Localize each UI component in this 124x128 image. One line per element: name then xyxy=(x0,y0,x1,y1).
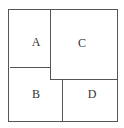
outer-border-bottom xyxy=(8,121,118,122)
divider-a-c xyxy=(50,9,51,80)
region-label-b: B xyxy=(32,88,40,100)
outer-border-right xyxy=(117,9,118,122)
divider-a-b xyxy=(10,67,51,68)
outer-border-top xyxy=(8,9,118,10)
outer-border-left xyxy=(8,9,9,122)
region-label-c: C xyxy=(78,37,86,49)
divider-c-bottom xyxy=(50,79,118,80)
region-label-a: A xyxy=(32,36,41,48)
region-label-d: D xyxy=(88,88,97,100)
partition-diagram: A B C D xyxy=(0,0,124,128)
divider-b-d xyxy=(62,79,63,122)
